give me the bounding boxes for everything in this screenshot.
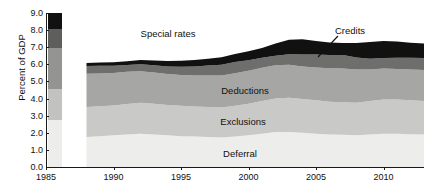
series-label-deductions: Deductions [221,85,269,96]
y-tick-mark [46,47,49,48]
x-tick-label-2010: 2010 [373,172,393,182]
stacked-area-chart: Percent of GDP 9.08.07.06.05.04.03.02.01… [0,0,428,196]
x-tick-label-1990: 1990 [103,172,123,182]
y-tick-mark [46,150,49,151]
series-label-exclusions: Exclusions [220,116,265,127]
x-tick-mark [316,167,317,170]
series-label-deferral: Deferral [223,148,257,159]
series-label-special-rates: Special rates [141,28,196,39]
x-tick-label-2000: 2000 [238,172,258,182]
x-tick-label-1995: 1995 [171,172,191,182]
y-tick-mark [46,81,49,82]
y-tick-mark [46,64,49,65]
x-tick-label-2005: 2005 [306,172,326,182]
x-tick-label-1985: 1985 [36,172,56,182]
y-tick-mark [46,167,49,168]
x-tick-mark [114,167,115,170]
series-label-credits: Credits [335,25,365,36]
x-tick-mark [384,167,385,170]
y-tick-mark [46,133,49,134]
y-tick-mark [46,99,49,100]
y-tick-mark [46,116,49,117]
y-tick-mark [46,30,49,31]
x-tick-mark [249,167,250,170]
y-tick-mark [46,13,49,14]
x-tick-mark [181,167,182,170]
